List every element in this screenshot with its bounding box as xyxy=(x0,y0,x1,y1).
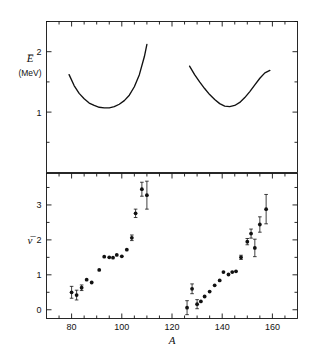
data-point xyxy=(239,255,243,259)
bottom-ytick-label: 2 xyxy=(36,235,41,245)
data-point xyxy=(111,256,115,260)
data-point xyxy=(227,273,231,277)
bottom-ytick-label: 0 xyxy=(36,305,41,315)
data-point xyxy=(245,240,249,244)
data-point xyxy=(249,232,253,236)
data-point xyxy=(85,278,89,282)
data-point xyxy=(125,248,129,252)
data-point xyxy=(145,193,149,197)
data-point xyxy=(258,223,262,227)
figure-root: 12E̅(MeV)80100120140160A0123ν̅ xyxy=(0,0,313,357)
data-point xyxy=(134,211,138,215)
top-ylabel: E̅ xyxy=(26,52,34,64)
two-panel-plot: 12E̅(MeV)80100120140160A0123ν̅ xyxy=(0,0,313,357)
data-point xyxy=(203,295,207,299)
data-point xyxy=(213,283,217,287)
data-point xyxy=(75,293,79,297)
x-axis-label: A xyxy=(168,334,176,346)
bottom-xtick-label: 80 xyxy=(67,322,77,332)
bottom-xtick-label: 160 xyxy=(265,322,280,332)
ebar-curve-heavy xyxy=(190,66,270,106)
data-point xyxy=(107,255,111,259)
data-point xyxy=(230,270,234,274)
data-point xyxy=(120,254,124,258)
top-panel-frame xyxy=(47,22,298,173)
data-point xyxy=(140,187,144,191)
bottom-panel-frame xyxy=(47,174,298,319)
data-point xyxy=(234,269,238,273)
data-point xyxy=(222,270,226,274)
top-ytick-label: 1 xyxy=(36,108,41,118)
data-point xyxy=(97,268,101,272)
ebar-curve-light xyxy=(69,44,147,107)
data-point xyxy=(218,279,222,283)
bottom-ytick-label: 3 xyxy=(36,200,41,210)
data-point xyxy=(264,207,268,211)
data-point xyxy=(102,255,106,259)
bottom-xtick-label: 100 xyxy=(114,322,129,332)
data-point xyxy=(185,306,189,310)
data-point xyxy=(199,299,203,303)
data-point xyxy=(115,253,119,257)
data-point xyxy=(195,302,199,306)
data-point xyxy=(80,286,84,290)
top-ytick-label: 2 xyxy=(36,47,41,57)
data-point xyxy=(90,281,94,285)
bottom-ylabel: ν̅ xyxy=(28,234,37,246)
bottom-xtick-label: 120 xyxy=(164,322,179,332)
data-point xyxy=(253,246,257,250)
data-point xyxy=(130,236,134,240)
bottom-ytick-label: 1 xyxy=(36,270,41,280)
bottom-xtick-label: 140 xyxy=(215,322,230,332)
top-yunit: (MeV) xyxy=(18,68,41,78)
data-point xyxy=(190,287,194,291)
data-point xyxy=(208,290,212,294)
data-point xyxy=(70,290,74,294)
